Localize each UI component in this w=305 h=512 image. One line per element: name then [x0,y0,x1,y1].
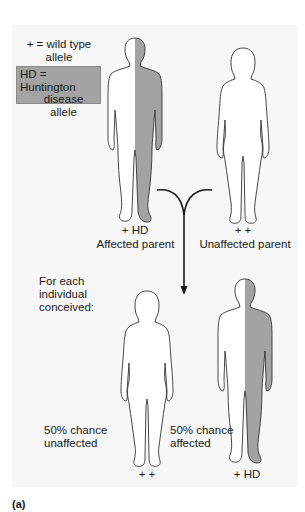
offspring-heading-line3: conceived: [39,301,94,314]
unaffected-parent-label: Unaffected parent [190,238,300,251]
offspring-affected-genotype: + HD [222,468,272,481]
offspring-heading-line2: individual [39,288,94,301]
legend-wild-type-line1: + = wild type [17,38,101,51]
offspring-affected-chance: 50% chance affected [170,424,233,450]
offspring-unaffected-genotype: + + [122,468,172,481]
legend-wild-type: + = wild type allele [17,38,101,64]
offspring-unaffected-figure [121,291,173,466]
offspring-unaffected-chance-line1: 50% chance [44,424,107,437]
legend-wild-type-line2: allele [17,51,101,64]
legend-hd-line1: HD = Huntington [17,68,100,93]
legend-hd-line3: allele [17,106,100,119]
affected-parent-label: Affected parent [88,238,183,251]
legend-hd-allele: HD = Huntington disease allele [16,66,101,104]
panel-label: (a) [12,498,25,511]
legend-hd-line2: disease [17,93,100,106]
unaffected-parent-genotype: + + [218,224,268,237]
offspring-unaffected-chance-line2: unaffected [44,437,107,450]
offspring-affected-chance-line2: affected [170,437,233,450]
unaffected-parent-figure [217,48,269,223]
offspring-unaffected-chance: 50% chance unaffected [44,424,107,450]
offspring-heading-line1: For each [39,275,94,288]
affected-parent-figure [108,38,162,222]
affected-parent-genotype: + HD [110,224,160,237]
offspring-heading: For each individual conceived: [39,275,94,314]
offspring-affected-chance-line1: 50% chance [170,424,233,437]
